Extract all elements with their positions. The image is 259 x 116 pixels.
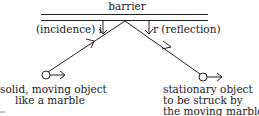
moving-object-caption-line-2: like a marble xyxy=(0,95,100,106)
moving-object-circle-icon xyxy=(42,71,50,79)
incident-arrow-icon xyxy=(86,39,94,48)
barrier-label: barrier xyxy=(105,1,149,12)
stationary-object-caption-line-3: the moving marble xyxy=(163,106,259,116)
moving-object-caption: solid, moving object like a marble xyxy=(0,84,100,106)
reflection-label: r (reflection) xyxy=(153,24,221,35)
stationary-object-caption: stationary object to be struck by the mo… xyxy=(163,84,259,116)
stationary-object-circle-icon xyxy=(199,73,207,81)
incidence-label: (incidence) i xyxy=(36,24,102,35)
